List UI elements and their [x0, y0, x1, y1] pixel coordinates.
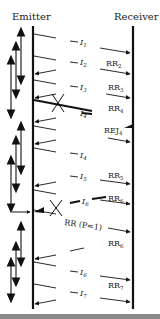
svg-text:I2: I2: [79, 58, 87, 68]
window-arrows: [8, 28, 25, 302]
svg-text:REJ4: REJ4: [104, 126, 123, 136]
i-frame-labels: I1 I2 I3 I4 I4 I5 I6 I6 I7: [79, 38, 89, 299]
svg-text:RR2: RR2: [106, 59, 122, 69]
poll-label: RR (P=1): [64, 218, 103, 232]
svg-text:RR5: RR5: [108, 171, 124, 181]
svg-text:RR6: RR6: [108, 239, 124, 249]
svg-text:RR6: RR6: [108, 194, 124, 204]
svg-text:I4: I4: [79, 151, 87, 161]
rej-arrow-head: [124, 124, 133, 128]
emitter-label: Emitter: [12, 11, 51, 22]
svg-text:RR4: RR4: [108, 104, 124, 114]
sliding-window-sequence-diagram: Emitter Receiver: [0, 0, 160, 319]
i-frame-lines: [34, 34, 130, 302]
bottom-rule: [0, 314, 160, 319]
svg-text:RR3: RR3: [108, 83, 124, 93]
svg-text:I1: I1: [79, 38, 87, 48]
svg-text:RR7: RR7: [108, 281, 124, 291]
svg-text:I5: I5: [79, 172, 87, 182]
receiver-label: Receiver: [114, 11, 159, 22]
svg-text:I6: I6: [81, 197, 89, 207]
lost-response-rr6: [70, 201, 80, 203]
svg-text:I6: I6: [79, 268, 87, 278]
lost-response-rr6-b: [92, 197, 106, 199]
svg-text:I7: I7: [79, 289, 87, 299]
svg-text:I3: I3: [79, 83, 87, 93]
lost-frame-i4: [34, 100, 92, 111]
